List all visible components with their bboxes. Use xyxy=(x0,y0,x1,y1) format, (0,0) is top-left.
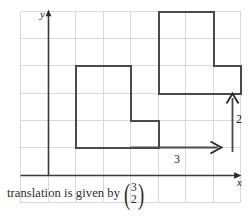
original-shape xyxy=(76,66,159,148)
y-axis-arrowhead-icon xyxy=(46,10,52,17)
vertical-translation-arrow xyxy=(227,94,239,153)
horizontal-translation-arrow xyxy=(131,142,222,154)
diagram-canvas xyxy=(0,0,252,217)
translated-shape xyxy=(159,12,241,94)
translation-diagram-figure: y x 3 2 translation is given by ( 3 2 ) xyxy=(0,0,252,217)
